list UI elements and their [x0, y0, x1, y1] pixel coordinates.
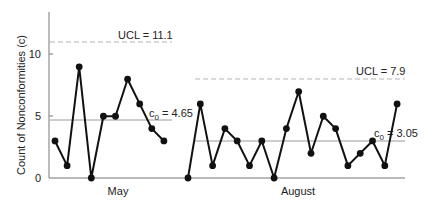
data-point [100, 113, 107, 120]
series-may [52, 63, 168, 181]
data-point [283, 125, 290, 132]
y-axis-title: Count of Nonconformities (c) [15, 35, 27, 175]
data-point [88, 175, 95, 182]
data-point [320, 113, 327, 120]
axes: 0 5 10 Count of Nonconformities (c) May … [15, 12, 405, 197]
data-point [161, 138, 168, 145]
data-point [136, 101, 143, 108]
c-chart-plot: 0 5 10 Count of Nonconformities (c) May … [0, 0, 438, 209]
data-point [234, 138, 241, 145]
control-chart: 0 5 10 Count of Nonconformities (c) May … [0, 0, 438, 209]
data-point [197, 101, 204, 108]
data-point [222, 125, 229, 132]
x-label-may: May [108, 185, 129, 197]
y-tick-label-10: 10 [29, 48, 41, 60]
data-point [112, 113, 119, 120]
control-limits: UCL = 11.1 c0 = 4.65 UCL = 7.9 c0 = 3.05 [50, 29, 418, 142]
y-tick-label-5: 5 [35, 110, 41, 122]
data-point [394, 101, 401, 108]
may-ucl-label: UCL = 11.1 [118, 29, 173, 41]
august-line [188, 92, 397, 178]
data-point [258, 138, 265, 145]
data-point [64, 162, 71, 169]
data-point [246, 162, 253, 169]
data-point [124, 76, 131, 83]
data-point [271, 175, 278, 182]
x-label-august: August [281, 185, 315, 197]
data-point [76, 63, 83, 70]
data-point [357, 150, 364, 157]
aug-center-label: c0 = 3.05 [374, 127, 418, 142]
data-point [52, 138, 59, 145]
aug-ucl-label: UCL = 7.9 [356, 65, 405, 77]
data-point [185, 175, 192, 182]
data-point [148, 125, 155, 132]
may-center-value: = 4.65 [159, 107, 193, 119]
aug-center-value: = 3.05 [384, 127, 418, 139]
data-point [345, 162, 352, 169]
data-point [369, 138, 376, 145]
data-point [381, 162, 388, 169]
data-point [209, 162, 216, 169]
data-point [308, 150, 315, 157]
series-august [185, 88, 401, 181]
data-point [295, 88, 302, 95]
y-tick-label-0: 0 [35, 172, 41, 184]
data-point [332, 125, 339, 132]
may-line [55, 67, 164, 178]
